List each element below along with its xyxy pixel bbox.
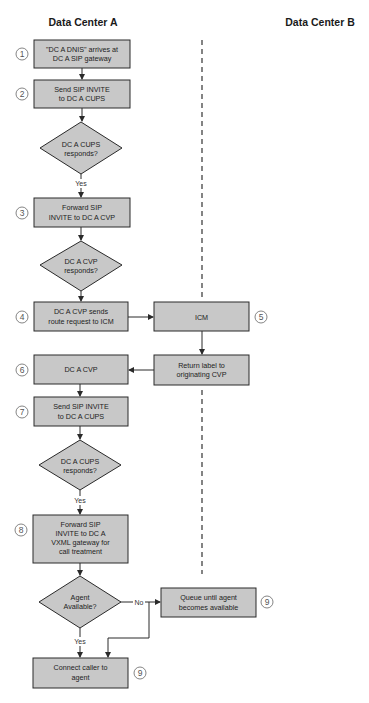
step-1-box: "DC A DNIS" arrives at DC A SIP gateway bbox=[34, 40, 130, 68]
column-title-data-center-b: Data Center B bbox=[285, 16, 355, 28]
svg-text:DC A CUPS: DC A CUPS bbox=[61, 457, 100, 466]
step-number-5: 5 bbox=[255, 311, 267, 323]
queue-line-2: becomes available bbox=[179, 603, 239, 612]
svg-text:4: 4 bbox=[20, 312, 25, 322]
step-8-line-2: INVITE to DC A bbox=[56, 529, 106, 538]
step-6-box: DC A CVP bbox=[34, 355, 128, 384]
svg-text:9: 9 bbox=[265, 597, 270, 607]
step-3-line-1: Forward SIP bbox=[62, 203, 102, 212]
step-7-line-2: to DC A CUPS bbox=[58, 412, 105, 421]
connect-line-1: Connect caller to bbox=[54, 663, 108, 672]
step-4-line-1: DC A CVP sends bbox=[54, 307, 109, 316]
step-3-box: Forward SIP INVITE to DC A CVP bbox=[34, 198, 130, 227]
step-2-box: Send SIP INVITE to DC A CUPS bbox=[34, 80, 130, 108]
step-number-9-connect: 9 bbox=[134, 667, 146, 679]
edge-label-yes-2: Yes bbox=[74, 497, 86, 504]
svg-text:Available?: Available? bbox=[63, 602, 96, 611]
step-5-line-1: ICM bbox=[195, 313, 208, 322]
svg-text:DC A CVP: DC A CVP bbox=[64, 257, 97, 266]
step-8-box: Forward SIP INVITE to DC A VXML gateway … bbox=[33, 515, 128, 563]
step-5-icm-box: ICM bbox=[154, 302, 249, 331]
decision-cups-responds-1: DC A CUPS responds? bbox=[40, 122, 122, 174]
step-3-line-2: INVITE to DC A CVP bbox=[49, 213, 116, 222]
return-label-line-2: originating CVP bbox=[177, 370, 227, 379]
step-number-6: 6 bbox=[16, 364, 28, 376]
edge-label-no: No bbox=[135, 599, 144, 606]
arrow-queue-connect bbox=[108, 602, 149, 657]
step-number-9-queue: 9 bbox=[261, 596, 273, 608]
step-4-box: DC A CVP sends route request to ICM bbox=[34, 302, 128, 331]
svg-text:9: 9 bbox=[138, 668, 143, 678]
svg-text:Agent: Agent bbox=[71, 593, 90, 602]
step-9-queue-box: Queue until agent becomes available bbox=[161, 588, 256, 617]
step-number-3: 3 bbox=[16, 207, 28, 219]
svg-text:5: 5 bbox=[259, 312, 264, 322]
step-8-line-4: call treatment bbox=[59, 547, 102, 556]
step-number-7: 7 bbox=[16, 406, 28, 418]
return-label-line-1: Return label to bbox=[178, 361, 225, 370]
svg-text:7: 7 bbox=[20, 407, 25, 417]
step-number-2: 2 bbox=[16, 88, 28, 100]
step-1-line-2: DC A SIP gateway bbox=[53, 54, 112, 63]
step-1-line-1: "DC A DNIS" arrives at bbox=[46, 45, 118, 54]
step-number-4: 4 bbox=[16, 311, 28, 323]
svg-text:3: 3 bbox=[20, 208, 25, 218]
step-6-line-1: DC A CVP bbox=[64, 365, 97, 374]
decision-cups-responds-2: DC A CUPS responds? bbox=[39, 440, 121, 490]
step-8-line-3: VXML gateway for bbox=[51, 538, 110, 547]
step-7-box: Send SIP INVITE to DC A CUPS bbox=[34, 397, 128, 426]
step-9-connect-box: Connect caller to agent bbox=[33, 658, 128, 688]
step-2-line-1: Send SIP INVITE bbox=[54, 85, 110, 94]
step-7-line-1: Send SIP INVITE bbox=[53, 402, 109, 411]
edge-label-yes-3: Yes bbox=[74, 638, 86, 645]
decision-agent-available: Agent Available? bbox=[39, 576, 121, 628]
svg-text:8: 8 bbox=[19, 525, 24, 535]
step-4-line-2: route request to ICM bbox=[48, 317, 114, 326]
svg-text:2: 2 bbox=[20, 89, 25, 99]
step-8-line-1: Forward SIP bbox=[61, 520, 101, 529]
svg-text:1: 1 bbox=[20, 49, 25, 59]
svg-text:responds?: responds? bbox=[64, 266, 98, 275]
decision-cvp-responds: DC A CVP responds? bbox=[40, 241, 122, 291]
svg-text:6: 6 bbox=[20, 365, 25, 375]
flowchart: Data Center A Data Center B "DC A DNIS" … bbox=[0, 0, 369, 703]
svg-text:responds?: responds? bbox=[64, 149, 98, 158]
step-number-8: 8 bbox=[15, 524, 27, 536]
step-2-line-2: to DC A CUPS bbox=[59, 94, 106, 103]
column-title-data-center-a: Data Center A bbox=[48, 16, 117, 28]
edge-label-yes-1: Yes bbox=[75, 180, 87, 187]
step-number-1: 1 bbox=[16, 48, 28, 60]
svg-text:responds?: responds? bbox=[63, 466, 97, 475]
return-label-box: Return label to originating CVP bbox=[154, 355, 249, 385]
connect-line-2: agent bbox=[72, 673, 90, 682]
queue-line-1: Queue until agent bbox=[180, 593, 237, 602]
svg-text:DC A CUPS: DC A CUPS bbox=[62, 140, 101, 149]
